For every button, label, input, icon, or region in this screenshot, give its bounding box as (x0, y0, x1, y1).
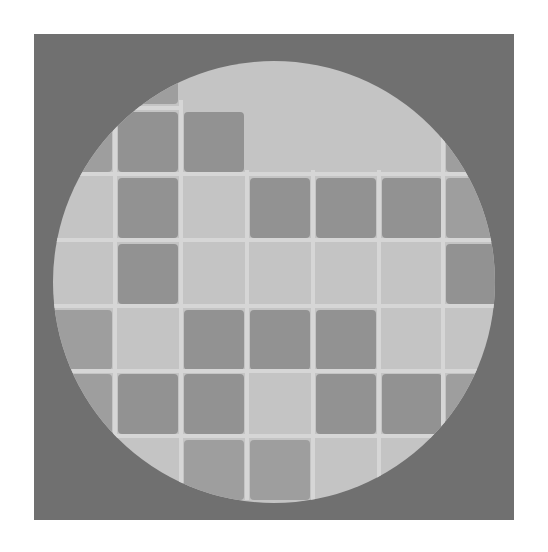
grid-line-vertical (311, 170, 315, 500)
die-cell (184, 374, 244, 434)
die-cell (118, 112, 178, 172)
die-cell (316, 178, 376, 238)
die-cell (316, 374, 376, 434)
die-cell (382, 178, 442, 238)
wafer-map-graphic (0, 0, 548, 552)
grid-line-vertical (377, 170, 381, 500)
die-cell (382, 374, 442, 434)
die-cell (118, 178, 178, 238)
die-cell (118, 244, 178, 304)
die-cell (184, 310, 244, 370)
die-cell (118, 374, 178, 434)
wafer-figure (0, 0, 548, 552)
grid-line-vertical (441, 100, 445, 470)
die-cell (250, 310, 310, 370)
die-cell (316, 310, 376, 370)
die-cell (250, 178, 310, 238)
grid-line-vertical (179, 100, 183, 500)
grid-line-vertical (245, 170, 249, 500)
die-cell (250, 440, 310, 500)
die-cell (184, 112, 244, 172)
